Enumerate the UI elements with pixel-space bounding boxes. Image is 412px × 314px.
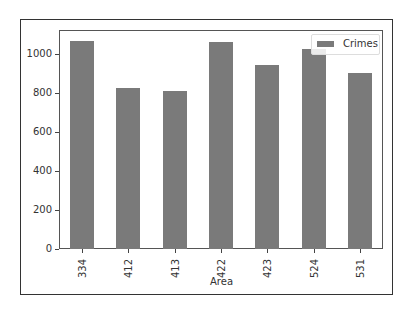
bar-531 xyxy=(348,73,372,249)
y-tick-label: 0 xyxy=(16,243,52,254)
bar-412 xyxy=(116,88,140,249)
bar-413 xyxy=(163,91,187,249)
y-tick xyxy=(55,249,59,250)
legend-label: Crimes xyxy=(343,38,378,49)
y-tick xyxy=(55,54,59,55)
y-tick-label: 600 xyxy=(16,126,52,137)
x-tick-label: 422 xyxy=(216,257,227,281)
x-tick xyxy=(82,249,83,253)
x-tick-label: 423 xyxy=(262,257,273,281)
y-tick xyxy=(55,93,59,94)
x-tick xyxy=(360,249,361,253)
y-tick xyxy=(55,210,59,211)
x-tick xyxy=(314,249,315,253)
bar-423 xyxy=(255,65,279,249)
y-tick-label: 1000 xyxy=(16,48,52,59)
y-tick-label: 800 xyxy=(16,87,52,98)
bar-334 xyxy=(70,41,94,249)
x-tick xyxy=(175,249,176,253)
x-tick-label: 531 xyxy=(354,257,365,281)
x-tick-label: 413 xyxy=(169,257,180,281)
y-tick xyxy=(55,171,59,172)
x-tick xyxy=(128,249,129,253)
bar-422 xyxy=(209,42,233,249)
legend: Crimes xyxy=(311,34,380,55)
x-tick-label: 412 xyxy=(123,257,134,281)
x-tick-label: 524 xyxy=(308,257,319,281)
x-tick xyxy=(221,249,222,253)
x-tick-label: 334 xyxy=(77,257,88,281)
y-tick-label: 200 xyxy=(16,204,52,215)
x-tick xyxy=(267,249,268,253)
y-tick-label: 400 xyxy=(16,165,52,176)
bar-524 xyxy=(302,49,326,249)
y-tick xyxy=(55,132,59,133)
legend-swatch xyxy=(317,41,334,47)
